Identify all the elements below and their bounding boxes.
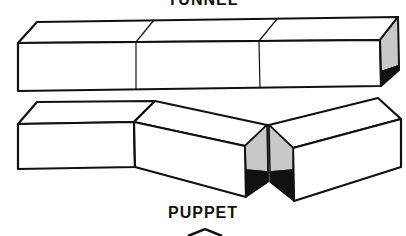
tunnel-front-face: [18, 40, 381, 91]
arrow-icon: [188, 229, 222, 236]
puppet-hinge-right-dark: [270, 170, 294, 201]
tunnel-top-face: [18, 17, 398, 43]
puppet-seg1-front: [18, 122, 135, 169]
diagram-canvas: [0, 0, 406, 236]
tunnel-figure: [18, 17, 399, 91]
puppet-label: PUPPET: [0, 204, 406, 222]
puppet-hinge-left-dark: [246, 170, 268, 197]
puppet-figure: [18, 98, 401, 201]
